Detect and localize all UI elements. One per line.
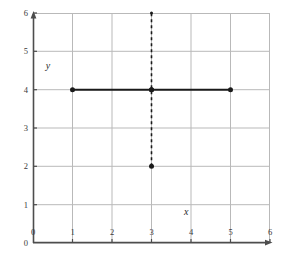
figure-background — [0, 0, 283, 258]
y-tick-label-0: 0 — [24, 238, 28, 248]
plot-canvas: 0123456 0123456 yx — [0, 0, 283, 258]
y-tick-label-3: 3 — [24, 123, 28, 133]
x-tick-label-5: 5 — [228, 227, 232, 237]
x-tick-label-0: 0 — [31, 227, 35, 237]
data-point-3-6 — [150, 12, 153, 15]
data-point-1-4 — [70, 87, 75, 92]
axis-label-x: x — [183, 206, 189, 217]
y-tick-label-5: 5 — [24, 46, 28, 56]
x-tick-label-6: 6 — [268, 227, 272, 237]
x-tick-label-1: 1 — [70, 227, 74, 237]
y-tick-label-6: 6 — [24, 8, 28, 18]
x-tick-label-3: 3 — [149, 227, 153, 237]
data-point-3-2 — [149, 164, 154, 169]
data-point-5-4 — [228, 87, 233, 92]
y-tick-label-1: 1 — [24, 200, 28, 210]
axis-label-y: y — [45, 60, 51, 71]
y-tick-label-2: 2 — [24, 161, 28, 171]
x-tick-label-2: 2 — [110, 227, 114, 237]
coordinate-plot-figure: 0123456 0123456 yx — [0, 0, 283, 258]
data-point-3-4 — [149, 87, 154, 92]
